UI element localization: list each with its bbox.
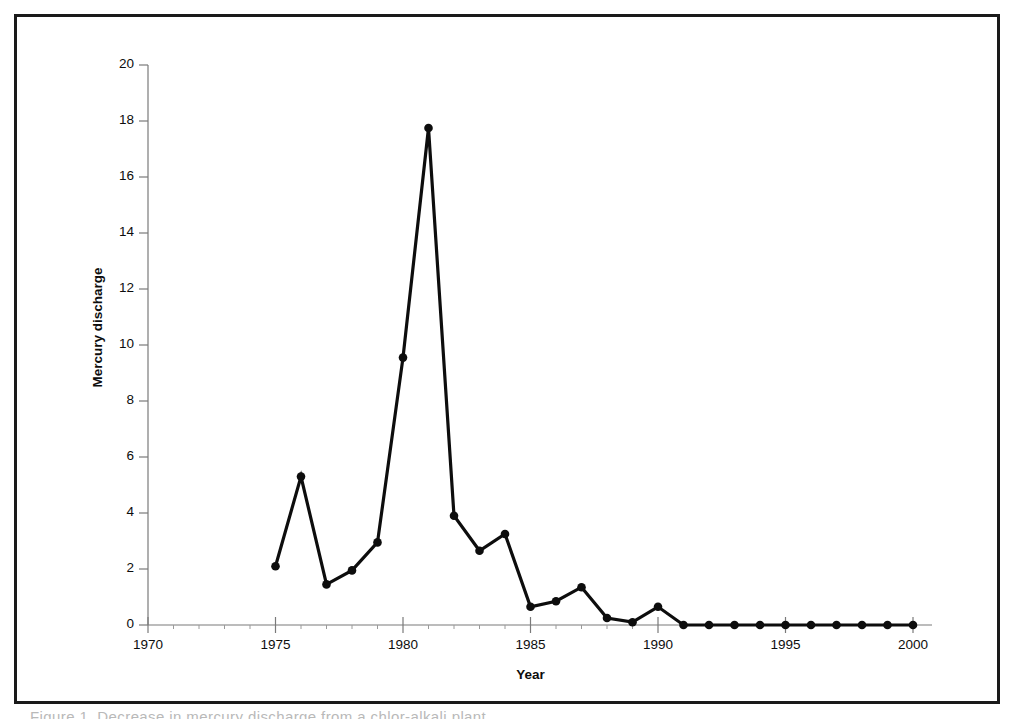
x-axis-tick-label: 1975 [241, 637, 311, 652]
data-point-marker [858, 621, 867, 630]
data-point-marker [271, 562, 280, 571]
y-axis-ticks [139, 65, 148, 625]
y-axis-tick-label: 4 [90, 504, 134, 519]
y-axis-tick-label: 8 [90, 392, 134, 407]
line-chart [0, 0, 1014, 719]
x-axis-tick-label: 1990 [623, 637, 693, 652]
data-point-marker [654, 603, 663, 612]
data-point-marker [909, 621, 918, 630]
figure-container: 02468101214161820 1970197519801985199019… [0, 0, 1014, 719]
data-point-marker [679, 621, 688, 630]
data-point-marker [628, 618, 637, 627]
data-point-marker [705, 621, 714, 630]
data-point-marker [577, 583, 586, 592]
data-point-marker [450, 512, 459, 521]
y-axis-tick-label: 6 [90, 448, 134, 463]
data-point-marker [475, 547, 484, 556]
data-point-marker [501, 530, 510, 539]
data-point-marker [373, 538, 382, 547]
mercury-discharge-line [276, 128, 914, 625]
data-point-marker [832, 621, 841, 630]
figure-caption: Figure 1. Decrease in mercury discharge … [30, 708, 970, 719]
y-axis-tick-label: 20 [90, 56, 134, 71]
data-point-marker [348, 566, 357, 575]
y-axis-tick-label: 14 [90, 224, 134, 239]
data-point-marker [781, 621, 790, 630]
x-axis-tick-label: 1970 [113, 637, 183, 652]
data-point-marker [322, 580, 331, 589]
data-point-marker [552, 597, 561, 606]
data-point-marker [399, 353, 408, 362]
data-point-marker [424, 124, 433, 133]
data-point-marker [526, 603, 535, 612]
data-point-marker [756, 621, 765, 630]
y-axis-tick-label: 16 [90, 168, 134, 183]
data-point-marker [730, 621, 739, 630]
y-axis-title: Mercury discharge [90, 267, 105, 387]
x-axis-tick-label: 1995 [751, 637, 821, 652]
data-point-marker [297, 472, 306, 481]
chart-axes [148, 65, 932, 625]
y-axis-tick-label: 0 [90, 616, 134, 631]
x-axis-tick-label: 2000 [878, 637, 948, 652]
data-point-marker [603, 614, 612, 623]
data-point-marker [883, 621, 892, 630]
x-axis-title: Year [148, 667, 913, 682]
x-axis-tick-label: 1985 [496, 637, 566, 652]
data-point-marker [807, 621, 816, 630]
y-axis-tick-label: 18 [90, 112, 134, 127]
y-axis-tick-label: 2 [90, 560, 134, 575]
x-axis-tick-label: 1980 [368, 637, 438, 652]
